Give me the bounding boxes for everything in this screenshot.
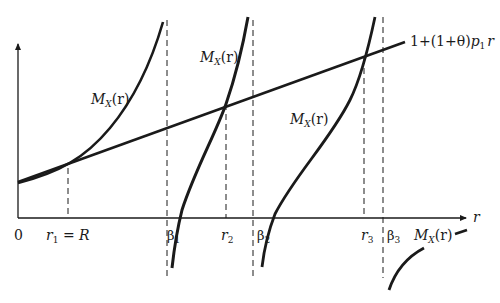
curve1-label: MX(r) xyxy=(90,91,129,109)
tick-r3: r3 xyxy=(361,227,374,245)
origin-label: 0 xyxy=(14,227,23,243)
x-axis-label: r xyxy=(473,209,481,225)
tick-r2: r2 xyxy=(221,227,233,245)
mgf-adjustment-coefficient-diagram: 1+(1+θ)p1r MX(r) MX(r) MX(r) MX(r) 0 r r… xyxy=(0,0,500,303)
mgf-curve-branch-3 xyxy=(262,17,375,267)
mgf-curve-branch-4-tail xyxy=(455,230,467,234)
curve3-label: MX(r) xyxy=(289,111,328,129)
premium-line-label: 1+(1+θ)p1r xyxy=(410,33,495,51)
mgf-curve-branch-4 xyxy=(389,248,424,290)
curve2-label: MX(r) xyxy=(199,49,238,67)
tick-r1: r1 = R xyxy=(46,227,90,245)
tick-beta3: β3 xyxy=(387,228,401,245)
curve4-label: MX(r) xyxy=(413,227,452,245)
